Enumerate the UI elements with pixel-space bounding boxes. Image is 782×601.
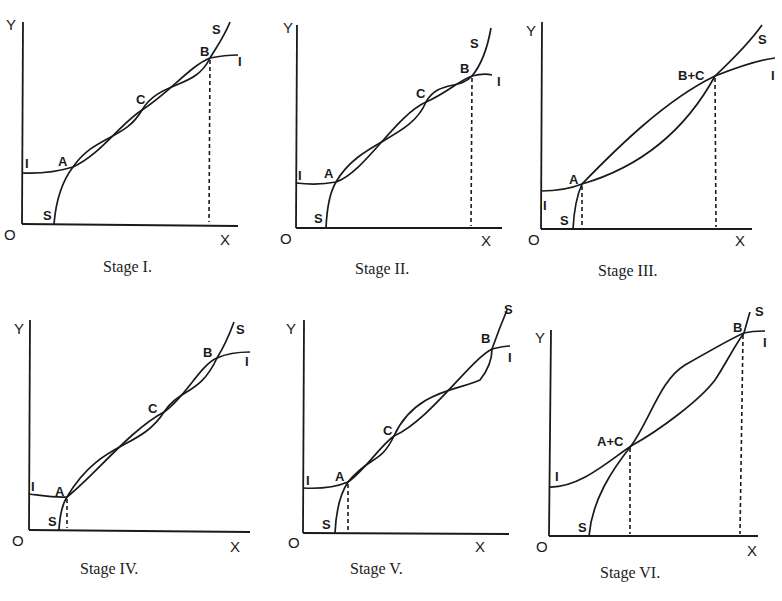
s-curve-bottom-label: S: [48, 514, 57, 529]
caption-stage-6: Stage VI.: [600, 564, 660, 582]
i-curve-right-label: I: [771, 68, 775, 83]
s-curve-bottom-label: S: [578, 520, 587, 535]
y-axis-label: Y: [535, 329, 545, 346]
point-b-label: B: [481, 331, 490, 346]
origin-label: O: [4, 226, 16, 243]
s-curve-top-label: S: [758, 32, 767, 47]
point-bc-label: B+C: [678, 68, 705, 83]
y-axis-label: Y: [286, 320, 296, 337]
dashed-line-b: [471, 78, 472, 226]
y-axis-label: Y: [526, 22, 536, 39]
point-a-label: A: [55, 484, 65, 499]
panel-stage-4: Y O X I I S S A C B Stage IV.: [12, 320, 250, 578]
i-curve-right-label: I: [497, 74, 501, 89]
y-axis: [29, 320, 30, 530]
s-curve-bottom-label: S: [322, 517, 331, 532]
stages-diagram: Y O X I I S S A C B Stage I. Y O X I I S…: [0, 0, 782, 601]
caption-stage-5: Stage V.: [350, 560, 403, 578]
origin-label: O: [528, 231, 540, 248]
y-axis: [541, 22, 542, 229]
savings-curve: [326, 28, 491, 228]
i-curve-left-label: I: [543, 198, 547, 213]
s-curve-top-label: S: [470, 36, 479, 51]
y-axis-label: Y: [6, 16, 16, 33]
panel-stage-3: Y O X I I S S A B+C Stage III.: [526, 22, 775, 280]
s-curve-bottom-label: S: [560, 213, 569, 228]
caption-stage-2: Stage II.: [355, 260, 409, 278]
i-curve-right-label: I: [508, 350, 512, 365]
point-c-label: C: [136, 92, 146, 107]
x-axis-label: X: [481, 232, 491, 249]
x-axis-label: X: [230, 538, 240, 555]
y-axis-label: Y: [14, 320, 24, 337]
dashed-line-bc: [715, 78, 716, 227]
panel-stage-6: Y O X I I S S A+C B Stage VI.: [535, 304, 767, 582]
point-a-label: A: [569, 172, 579, 187]
i-curve-right-label: I: [238, 54, 242, 69]
panel-stage-1: Y O X I I S S A C B Stage I.: [4, 16, 242, 276]
panel-stage-5: Y O X I I S S A C B Stage V.: [286, 302, 513, 578]
savings-curve: [573, 25, 762, 229]
x-axis: [22, 224, 238, 226]
caption-stage-3: Stage III.: [598, 262, 658, 280]
i-curve-right-label: I: [245, 354, 249, 369]
i-curve-left-label: I: [25, 156, 29, 171]
y-axis: [296, 25, 297, 228]
y-axis: [549, 330, 551, 536]
i-curve-right-label: I: [763, 335, 767, 350]
point-b-label: B: [200, 44, 209, 59]
point-b-label: B: [460, 61, 469, 76]
point-c-label: C: [416, 86, 426, 101]
panel-stage-2: Y O X I I S S A C B Stage II.: [280, 19, 502, 278]
i-curve-left-label: I: [555, 469, 559, 484]
point-b-label: B: [203, 345, 212, 360]
point-a-label: A: [58, 154, 68, 169]
dashed-line-b: [740, 335, 743, 534]
point-a-label: A: [335, 469, 345, 484]
i-curve-left-label: I: [306, 473, 310, 488]
y-axis: [22, 22, 23, 224]
investment-curve: [22, 55, 238, 173]
point-b-label: B: [733, 320, 742, 335]
point-a-label: A: [324, 166, 334, 181]
origin-label: O: [288, 534, 300, 551]
s-curve-top-label: S: [212, 22, 221, 37]
x-axis: [29, 530, 250, 532]
investment-curve: [29, 352, 250, 497]
i-curve-left-label: I: [31, 479, 35, 494]
y-axis: [303, 320, 304, 533]
x-axis-label: X: [475, 538, 485, 555]
dashed-line-b: [209, 60, 210, 222]
caption-stage-1: Stage I.: [103, 258, 152, 276]
x-axis-label: X: [735, 232, 745, 249]
s-curve-top-label: S: [755, 304, 764, 319]
caption-stage-4: Stage IV.: [80, 560, 138, 578]
s-curve-bottom-label: S: [43, 208, 52, 223]
y-axis-label: Y: [283, 19, 293, 36]
savings-curve: [589, 312, 750, 536]
s-curve-top-label: S: [504, 302, 513, 317]
point-ac-label: A+C: [597, 434, 624, 449]
origin-label: O: [280, 230, 292, 247]
x-axis-label: X: [747, 542, 757, 559]
s-curve-bottom-label: S: [314, 211, 323, 226]
investment-curve: [549, 331, 765, 487]
origin-label: O: [536, 538, 548, 555]
point-c-label: C: [383, 423, 393, 438]
i-curve-left-label: I: [298, 168, 302, 183]
point-c-label: C: [148, 401, 158, 416]
s-curve-top-label: S: [236, 322, 245, 337]
x-axis: [303, 533, 509, 534]
origin-label: O: [12, 532, 24, 549]
x-axis-label: X: [220, 231, 230, 248]
